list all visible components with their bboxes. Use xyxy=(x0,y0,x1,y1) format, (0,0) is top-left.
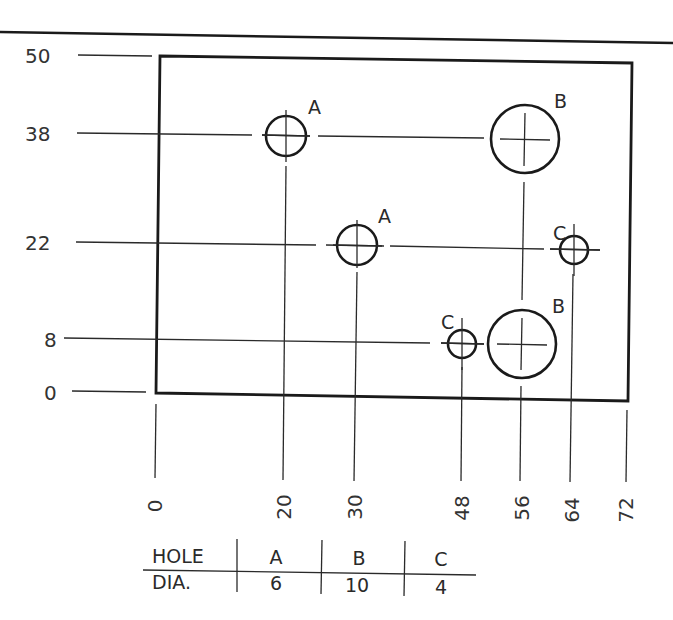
hole-location-drawing: 50 38 22 8 0 0 20 30 48 56 64 72 xyxy=(0,0,673,620)
y-dim-38: 38 xyxy=(25,122,50,146)
x-dim-56: 56 xyxy=(510,495,534,520)
hole-table-dia-c: 4 xyxy=(435,576,447,598)
hole-table-col-b: B xyxy=(352,547,365,569)
hole-label-a: A xyxy=(308,96,321,118)
hole-label-b: B xyxy=(554,90,567,112)
hole-label-b: B xyxy=(552,295,565,317)
hole-label-c: C xyxy=(441,311,454,333)
x-dim-72: 72 xyxy=(614,497,638,522)
hole-c-64-22: C xyxy=(550,222,600,276)
hole-table-header-label: HOLE xyxy=(152,545,204,567)
x-dim-0: 0 xyxy=(143,500,167,513)
hole-b-56-8: B xyxy=(488,295,565,378)
top-border-line xyxy=(0,32,673,43)
x-dim-64: 64 xyxy=(560,497,584,522)
hole-table-dia-a: 6 xyxy=(270,572,282,594)
hole-label-a: A xyxy=(378,205,391,227)
hole-label-c: C xyxy=(553,222,566,244)
y-dim-0: 0 xyxy=(44,381,57,405)
hole-table-dia-b: 10 xyxy=(345,574,369,596)
hole-table-divider xyxy=(143,570,476,575)
y-dim-50: 50 xyxy=(25,44,50,68)
y-dim-8: 8 xyxy=(44,328,57,352)
hole-b-56-38: B xyxy=(491,90,567,173)
hole-table-col-a: A xyxy=(270,546,283,568)
hole-c-48-8: C xyxy=(441,311,484,370)
x-dim-48: 48 xyxy=(450,495,474,520)
hole-a-30-22: A xyxy=(333,205,391,268)
x-dim-30: 30 xyxy=(343,494,367,519)
x-dim-20: 20 xyxy=(272,494,296,519)
hole-table-col-c: C xyxy=(434,548,447,570)
hole-a-20-38: A xyxy=(262,96,321,162)
hole-table: HOLE DIA. A 6 B 10 C 4 xyxy=(143,539,476,598)
y-dim-22: 22 xyxy=(25,231,50,255)
hole-table-row-label: DIA. xyxy=(152,571,191,593)
